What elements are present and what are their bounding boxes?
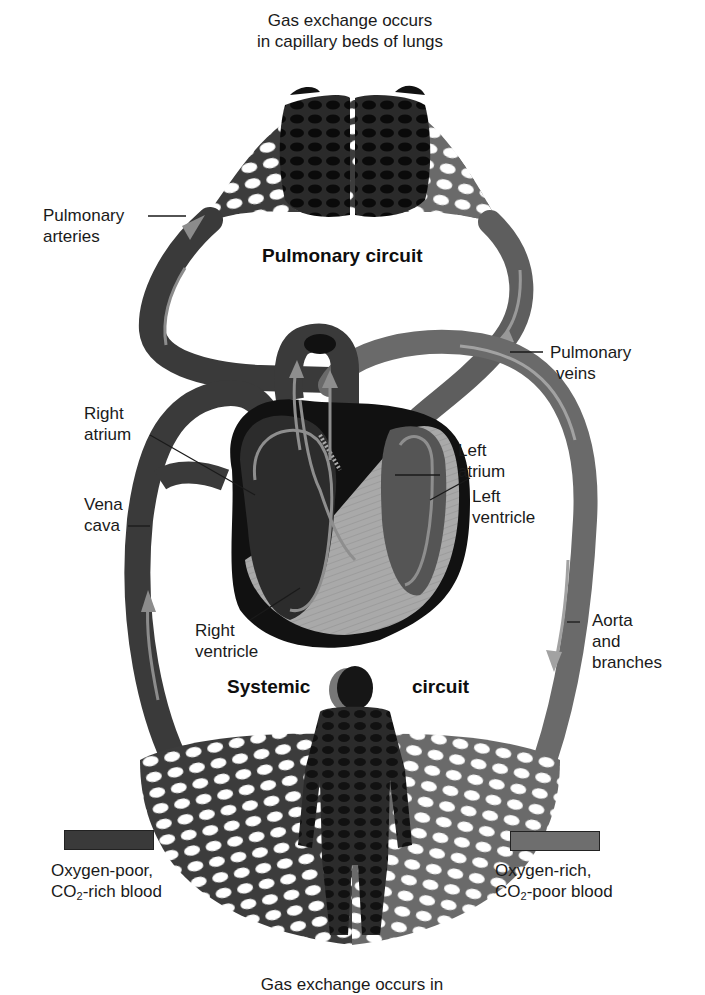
label-pulmonary-veins: Pulmonary veins bbox=[550, 342, 631, 384]
lung-capillary-bed bbox=[200, 86, 500, 225]
systemic-circuit-label-right: circuit bbox=[412, 676, 469, 698]
label-line: Aorta bbox=[592, 610, 662, 631]
co2-suffix-text: -rich blood bbox=[83, 882, 162, 901]
label-line: veins bbox=[550, 363, 631, 384]
label-right-atrium: Right atrium bbox=[84, 403, 131, 445]
pulmonary-circuit-label: Pulmonary circuit bbox=[262, 245, 423, 267]
label-line: arteries bbox=[43, 226, 124, 247]
legend-oxygen-poor: Oxygen-poor, CO2-rich blood bbox=[51, 860, 162, 902]
label-line: Pulmonary bbox=[43, 205, 124, 226]
legend-swatch-oxygen-rich bbox=[510, 831, 600, 851]
label-line: atrium bbox=[458, 461, 505, 482]
label-line: Right bbox=[195, 620, 258, 641]
legend-oxygen-rich: Oxygen-rich, CO2-poor blood bbox=[495, 860, 613, 902]
title-line-1: Gas exchange occurs bbox=[200, 10, 500, 31]
systemic-gas-exchange-title: Gas exchange occurs in bbox=[202, 974, 502, 995]
legend-swatch-oxygen-poor bbox=[64, 830, 154, 850]
label-vena-cava: Vena cava bbox=[84, 494, 123, 536]
title-line-2: in capillary beds of lungs bbox=[200, 31, 500, 52]
systemic-circuit-label-left: Systemic bbox=[227, 676, 310, 698]
label-right-ventricle: Right ventricle bbox=[195, 620, 258, 662]
label-line: and bbox=[592, 631, 662, 652]
label-line: ventricle bbox=[472, 507, 535, 528]
label-line: atrium bbox=[84, 424, 131, 445]
label-left-atrium: Left atrium bbox=[458, 440, 505, 482]
legend-line: CO2-rich blood bbox=[51, 881, 162, 902]
label-line: ventricle bbox=[195, 641, 258, 662]
legend-line: CO2-poor blood bbox=[495, 881, 613, 902]
label-aorta-and-branches: Aorta and branches bbox=[592, 610, 662, 673]
co2-text: CO bbox=[495, 882, 521, 901]
lung-gas-exchange-title: Gas exchange occurs in capillary beds of… bbox=[200, 10, 500, 52]
label-line: Pulmonary bbox=[550, 342, 631, 363]
label-line: Left bbox=[472, 486, 535, 507]
label-line: Left bbox=[458, 440, 505, 461]
pulmonary-vein-vessel bbox=[420, 222, 521, 418]
label-line: branches bbox=[592, 652, 662, 673]
label-line: Vena bbox=[84, 494, 123, 515]
label-line: cava bbox=[84, 515, 123, 536]
legend-line: Oxygen-rich, bbox=[495, 860, 613, 881]
co2-text: CO bbox=[51, 882, 77, 901]
legend-line: Oxygen-poor, bbox=[51, 860, 162, 881]
label-left-ventricle: Left ventricle bbox=[472, 486, 535, 528]
label-pulmonary-arteries: Pulmonary arteries bbox=[43, 205, 124, 247]
label-line: Right bbox=[84, 403, 131, 424]
co2-suffix-text: -poor blood bbox=[527, 882, 613, 901]
